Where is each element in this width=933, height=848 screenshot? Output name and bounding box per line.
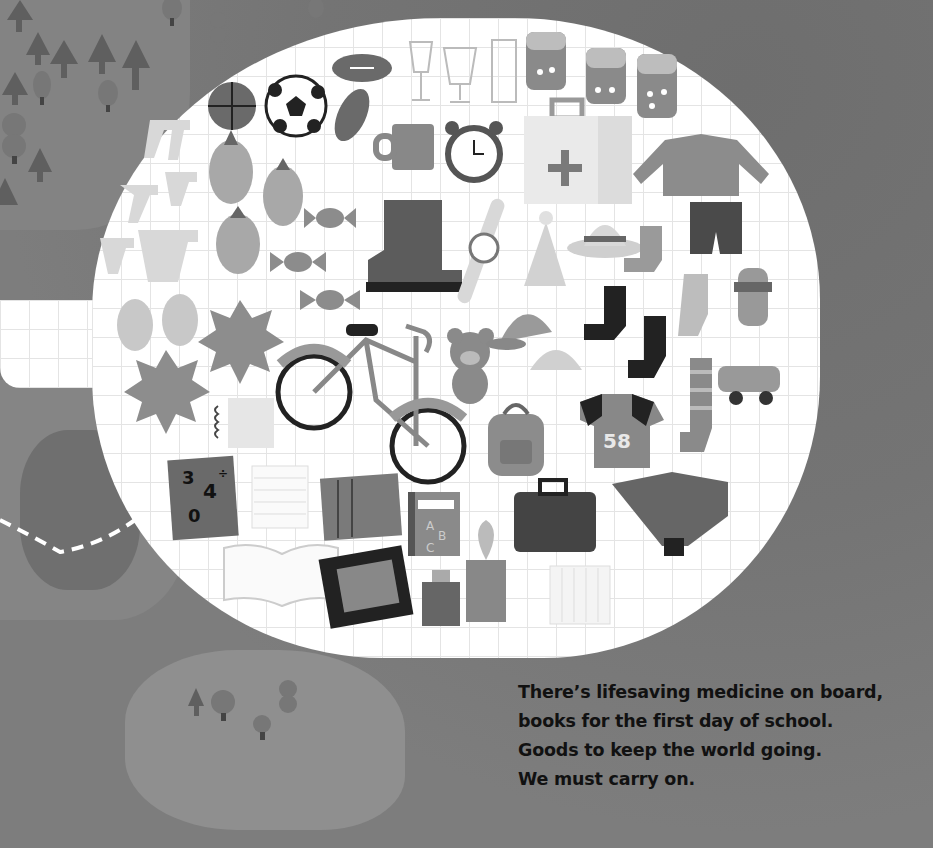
party-hat-icon bbox=[524, 211, 566, 286]
bicycle-icon bbox=[278, 324, 464, 482]
caption-line-1: There’s lifesaving medicine on board, bbox=[518, 678, 883, 707]
jersey-number: 58 bbox=[603, 429, 631, 453]
caption-line-4: We must carry on. bbox=[518, 765, 883, 794]
svg-text:÷: ÷ bbox=[218, 467, 228, 481]
medicine-jars-icon bbox=[526, 32, 677, 118]
toy-car-icon bbox=[718, 366, 780, 405]
basketball-icon bbox=[208, 82, 256, 130]
lined-paper-icon bbox=[252, 466, 308, 528]
svg-text:B: B bbox=[438, 529, 446, 543]
open-book-icon bbox=[224, 545, 338, 606]
math-book-icon: 3 4 ÷ 0 bbox=[167, 456, 238, 540]
svg-text:4: 4 bbox=[203, 479, 217, 503]
svg-text:A: A bbox=[426, 519, 435, 533]
sun-hat-icon bbox=[567, 225, 643, 258]
wine-glasses-icon bbox=[410, 40, 516, 102]
soccer-ball-icon bbox=[266, 76, 326, 136]
wristwatch-icon bbox=[456, 197, 507, 305]
jersey-icon: 58 bbox=[580, 394, 664, 468]
mangoes-icon bbox=[117, 294, 198, 351]
paper-sheet-icon bbox=[550, 566, 610, 624]
notebook-icon bbox=[320, 473, 402, 540]
alarm-clock-icon bbox=[445, 121, 503, 180]
caption-line-3: Goods to keep the world going. bbox=[518, 736, 883, 765]
football-icon bbox=[327, 84, 376, 147]
mug-icon bbox=[376, 124, 434, 170]
svg-text:C: C bbox=[426, 541, 434, 555]
teddy-bear-icon bbox=[447, 328, 494, 404]
notepad-icon bbox=[215, 398, 274, 448]
svg-text:3: 3 bbox=[182, 467, 195, 488]
cap-icon bbox=[530, 350, 582, 370]
boot-icon bbox=[366, 200, 462, 292]
story-caption: There’s lifesaving medicine on board, bo… bbox=[518, 678, 883, 794]
sweater-icon bbox=[633, 134, 769, 196]
gift-box-icon bbox=[422, 570, 460, 626]
abc-book-icon: ABC bbox=[408, 492, 460, 556]
backpack-icon bbox=[488, 405, 544, 476]
cap-icon bbox=[486, 314, 552, 350]
football-icon bbox=[332, 54, 392, 82]
tablet-icon bbox=[319, 545, 414, 629]
first-aid-kit-icon bbox=[524, 100, 632, 204]
briefcase-icon bbox=[514, 480, 596, 552]
toy-car-icon bbox=[734, 268, 772, 326]
svg-text:0: 0 bbox=[188, 505, 201, 526]
potted-plant-icon bbox=[466, 520, 506, 622]
caption-line-2: books for the first day of school. bbox=[518, 707, 883, 736]
pineapples-icon bbox=[209, 130, 303, 274]
ankle-boot-icon bbox=[612, 472, 728, 556]
bananas-icon bbox=[100, 120, 198, 282]
shorts-icon bbox=[690, 202, 742, 254]
